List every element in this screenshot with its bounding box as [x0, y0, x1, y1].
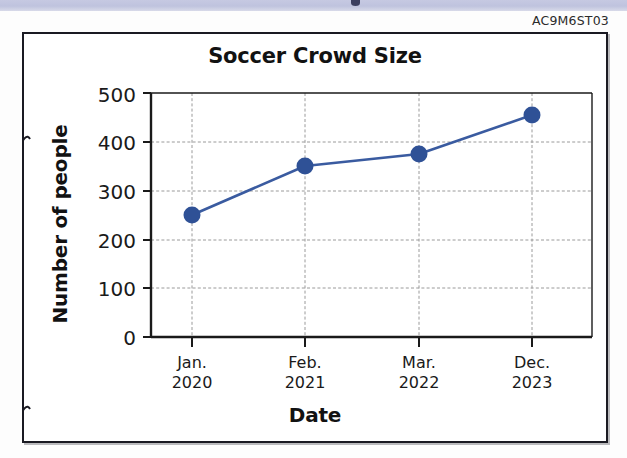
- chart-stimulus-box: Soccer Crowd Size Number of people Date …: [22, 32, 608, 443]
- data-point-marker[interactable]: [524, 107, 541, 124]
- y-gridlines: [151, 142, 592, 288]
- page-top-band-mark: [351, 0, 360, 6]
- data-line-series: [192, 115, 532, 215]
- worksheet-page: AC9M6ST03 Soccer Crowd Size Number of pe…: [0, 0, 627, 458]
- x-gridlines: [192, 93, 532, 337]
- data-point-marker[interactable]: [297, 158, 314, 175]
- plot-area: 500 400 300 200 100 0 Jan. 2020 Feb. 202…: [24, 34, 610, 445]
- x-axis-ticks: [192, 337, 532, 347]
- plot-frame: [151, 93, 592, 337]
- chart-canvas: [24, 34, 610, 445]
- data-point-marker[interactable]: [411, 146, 428, 163]
- data-point-markers: [184, 107, 541, 224]
- item-code-label: AC9M6ST03: [532, 13, 609, 28]
- data-point-marker[interactable]: [184, 207, 201, 224]
- page-top-band: [0, 0, 627, 11]
